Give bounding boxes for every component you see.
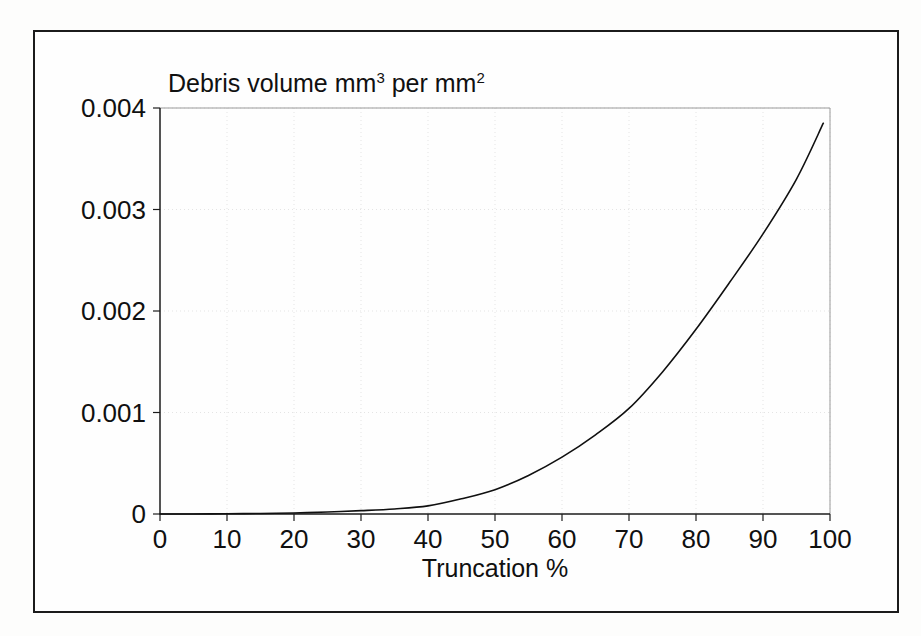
y-tick-label: 0.003 (81, 195, 146, 225)
y-tick-label: 0.002 (81, 296, 146, 326)
x-tick-label: 100 (808, 524, 851, 554)
x-tick-label: 20 (280, 524, 309, 554)
y-tick-label: 0.001 (81, 398, 146, 428)
x-tick-label: 0 (153, 524, 167, 554)
x-tick-label: 10 (213, 524, 242, 554)
y-axis-ticks (153, 108, 160, 514)
x-tick-label: 60 (548, 524, 577, 554)
x-tick-label: 70 (615, 524, 644, 554)
debris-volume-line-chart: 00.0010.0020.0030.004 010203040506070809… (0, 0, 921, 636)
x-tick-label: 80 (682, 524, 711, 554)
x-axis-ticks (160, 514, 830, 521)
x-tick-label: 30 (347, 524, 376, 554)
x-tick-label: 50 (481, 524, 510, 554)
figure-root: 00.0010.0020.0030.004 010203040506070809… (0, 0, 921, 636)
x-tick-label: 90 (749, 524, 778, 554)
y-tick-label: 0.004 (81, 93, 146, 123)
data-series-line (160, 123, 823, 514)
x-tick-label: 40 (414, 524, 443, 554)
chart-title: Debris volume mm3 per mm2 (168, 69, 485, 97)
x-axis-tick-labels: 0102030405060708090100 (153, 524, 852, 554)
y-tick-label: 0 (132, 499, 146, 529)
y-axis-tick-labels: 00.0010.0020.0030.004 (81, 93, 146, 529)
x-axis-label: Truncation % (422, 554, 568, 582)
